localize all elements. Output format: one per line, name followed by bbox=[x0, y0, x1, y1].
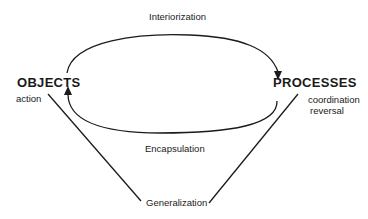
interiorization-label: Interiorization bbox=[149, 12, 206, 22]
objects-node: OBJECTS bbox=[17, 76, 81, 89]
interiorization-arc bbox=[67, 35, 278, 73]
encapsulation-arc bbox=[68, 94, 277, 133]
generalization-label: Generalization bbox=[146, 198, 207, 208]
generalization-line-left bbox=[48, 94, 141, 201]
processes-sublabel-coordination: coordination bbox=[308, 95, 360, 105]
generalization-line-right bbox=[209, 94, 298, 203]
objects-sublabel-action: action bbox=[16, 94, 41, 104]
encapsulation-label: Encapsulation bbox=[145, 144, 205, 154]
processes-sublabel-reversal: reversal bbox=[310, 106, 344, 116]
diagram-canvas: Interiorization OBJECTS action PROCESSES… bbox=[0, 0, 368, 219]
processes-node: PROCESSES bbox=[273, 76, 357, 89]
